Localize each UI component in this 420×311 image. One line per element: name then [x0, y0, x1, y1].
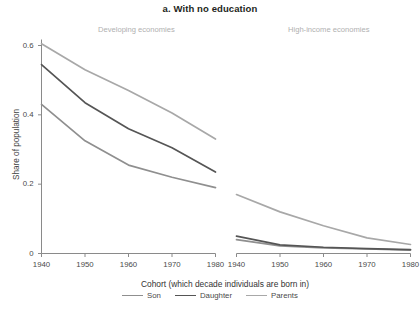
legend-line-icon: [175, 295, 196, 296]
x-tick-label: 1950: [263, 260, 297, 269]
x-tick-label: 1940: [220, 260, 254, 269]
legend-label: Parents: [271, 292, 298, 300]
legend-label: Daughter: [200, 292, 232, 300]
legend-item-parents[interactable]: Parents: [246, 292, 298, 300]
series-line-daughter: [42, 65, 216, 172]
chart-figure: a. With no education Developing economie…: [0, 0, 420, 311]
legend-line-icon: [122, 295, 143, 296]
x-tick-label: 1970: [350, 260, 384, 269]
series-line-parents: [42, 44, 216, 139]
x-tick-label: 1960: [307, 260, 341, 269]
legend-label: Son: [147, 292, 161, 300]
x-tick-label: 1940: [25, 260, 59, 269]
x-tick-label: 1960: [112, 260, 146, 269]
y-tick-label: 0: [8, 249, 34, 258]
y-tick-label: 0.2: [8, 179, 34, 188]
legend-line-icon: [246, 295, 267, 296]
x-tick-label: 1950: [68, 260, 102, 269]
x-tick-label: 1970: [155, 260, 189, 269]
legend-item-son[interactable]: Son: [122, 292, 161, 300]
series-line-parents: [237, 195, 411, 245]
y-tick-label: 0.4: [8, 110, 34, 119]
legend-item-daughter[interactable]: Daughter: [175, 292, 232, 300]
series-line-son: [42, 104, 216, 187]
x-tick-label: 1980: [394, 260, 420, 269]
y-tick-label: 0.6: [8, 41, 34, 50]
chart-legend: SonDaughterParents: [0, 292, 420, 300]
